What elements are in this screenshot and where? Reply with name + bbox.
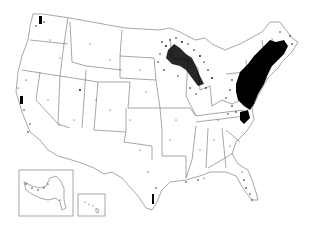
dense-northeast bbox=[236, 40, 288, 110]
alaska-inset-frame bbox=[19, 170, 73, 216]
dense-chesapeake bbox=[240, 110, 250, 124]
alaska-shape bbox=[24, 176, 66, 210]
hawaii-inset-frame bbox=[78, 194, 105, 216]
map-canvas bbox=[0, 0, 313, 228]
dense-upper-midwest bbox=[166, 44, 204, 86]
population-dots bbox=[166, 40, 288, 124]
us-dot-distribution-map bbox=[0, 0, 313, 228]
hawaii-islands bbox=[84, 202, 99, 213]
state-borders bbox=[16, 14, 298, 216]
border-lines bbox=[22, 18, 274, 178]
